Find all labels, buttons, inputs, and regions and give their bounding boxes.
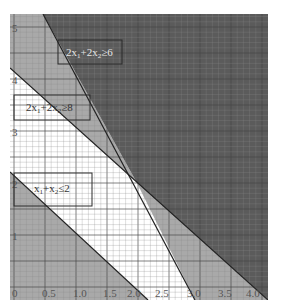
- x-tick-1-5: 1.5: [103, 287, 117, 299]
- y-tick-3: 3: [12, 126, 18, 138]
- x-tick-2-0: 2.0: [127, 287, 141, 299]
- feasible-region-chart: 5 4 3 2 1 0 0.5 1.0 1.5 2.0 2.5 3.0 3.5 …: [0, 0, 281, 308]
- x-tick-3-5: 3.5: [218, 287, 232, 299]
- svg-text:2x1+2x2≥6: 2x1+2x2≥6: [66, 46, 113, 60]
- x-tick-1-0: 1.0: [73, 287, 87, 299]
- y-tick-4: 4: [12, 74, 18, 86]
- x-tick-0-5: 0.5: [42, 287, 56, 299]
- svg-text:2x1+2x2≥8: 2x1+2x2≥8: [26, 101, 73, 115]
- svg-text:x1+x2≤2: x1+x2≤2: [34, 182, 70, 196]
- x-tick-0: 0: [12, 287, 18, 299]
- x-tick-4-0: 4.0: [246, 287, 260, 299]
- x-tick-3-0: 3.0: [187, 287, 201, 299]
- y-tick-5: 5: [12, 22, 18, 34]
- x-tick-2-5: 2.5: [155, 287, 169, 299]
- y-tick-1: 1: [12, 230, 18, 242]
- y-tick-2: 2: [12, 178, 18, 190]
